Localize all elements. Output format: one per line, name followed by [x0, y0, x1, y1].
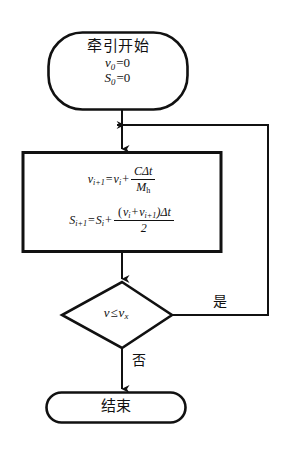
edge-label-yes: 是	[208, 294, 232, 309]
formula-velocity-lhs: vi+1	[88, 173, 105, 186]
start-title: 牵引开始	[48, 38, 188, 54]
formula-velocity-numerator: CΔt	[131, 165, 155, 180]
formula-velocity-equals: =	[105, 173, 114, 186]
formula-distance-equals: =	[87, 214, 96, 227]
formula-distance-fraction: (vi+vi+1)Δt 2	[114, 206, 174, 235]
formula-distance-term: Si	[96, 214, 104, 227]
start-initial-distance: S0=0	[48, 71, 188, 85]
decision-rhs-subscript: x	[124, 311, 128, 321]
formula-distance-denominator: 2	[138, 221, 150, 235]
formula-distance-plus: +	[104, 214, 113, 227]
decision-node-label: v≤vx	[62, 306, 170, 320]
formula-velocity-update: vi+1=vi+ CΔt Mh	[24, 165, 220, 194]
edge-label-no: 否	[128, 353, 150, 368]
formula-distance-numerator: (vi+vi+1)Δt	[114, 206, 174, 221]
decision-operator: ≤	[109, 305, 118, 320]
formula-distance-lhs: Si+1	[69, 214, 87, 227]
formula-velocity-denominator: Mh	[133, 180, 153, 194]
formula-velocity-plus: +	[121, 173, 130, 186]
formula-distance-update: Si+1=Si+ (vi+vi+1)Δt 2	[24, 206, 220, 235]
start-initial-velocity: v0=0	[48, 56, 188, 70]
end-node-label: 结束	[46, 398, 186, 414]
process-node-formulas: vi+1=vi+ CΔt Mh Si+1=Si+ (vi+vi+1)Δt 2	[24, 158, 220, 235]
formula-velocity-term: vi	[114, 173, 122, 186]
flowchart-diagram: 牵引开始 v0=0 S0=0 vi+1=vi+ CΔt Mh Si+1=Si+ …	[0, 0, 296, 451]
formula-velocity-fraction: CΔt Mh	[131, 165, 155, 194]
start-node-label: 牵引开始 v0=0 S0=0	[48, 38, 188, 85]
